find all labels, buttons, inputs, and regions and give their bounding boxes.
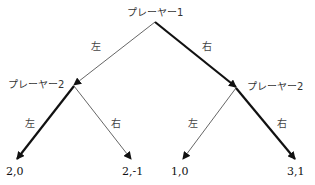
- edge-left-right: [74, 86, 131, 159]
- edge-label-left-left: 左: [25, 118, 35, 130]
- edge-label-right-right: 右: [277, 118, 287, 130]
- root-node-label: プレーヤー1: [127, 7, 183, 19]
- edge-label-right-left: 左: [188, 118, 198, 130]
- payoff-left-right: 2,-1: [122, 165, 143, 178]
- edge-label-root-right: 右: [202, 41, 212, 53]
- edge-label-root-left: 左: [91, 41, 101, 53]
- edge-root-left: [74, 22, 155, 85]
- edge-root-right: [155, 22, 236, 87]
- payoff-right-left: 1,0: [171, 165, 189, 178]
- payoff-right-right: 3,1: [287, 165, 305, 178]
- right-p2-node-label: プレーヤー2: [247, 81, 303, 93]
- edge-label-left-right: 右: [111, 118, 121, 130]
- left-p2-node-label: プレーヤー2: [8, 79, 64, 91]
- payoff-left-left: 2,0: [6, 165, 24, 178]
